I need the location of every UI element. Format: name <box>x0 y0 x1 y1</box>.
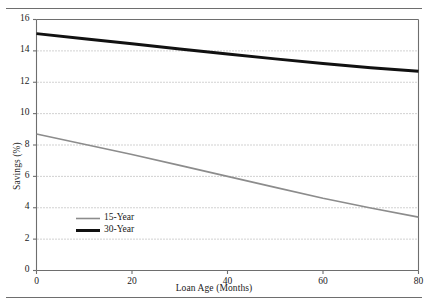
y-tick-label-4: 4 <box>4 201 30 211</box>
x-tick-label-40: 40 <box>208 276 248 286</box>
data-series-group <box>37 34 419 218</box>
y-tick-label-10: 10 <box>4 107 30 117</box>
series-line-30-year <box>37 34 419 72</box>
y-axis-label: Savings (%) <box>12 142 22 190</box>
series-line-15-year <box>37 134 419 217</box>
y-tick-label-12: 12 <box>4 76 30 86</box>
x-tick-label-0: 0 <box>17 276 57 286</box>
y-tick-label-8: 8 <box>4 139 30 149</box>
y-tick-label-0: 0 <box>4 264 30 274</box>
x-tick-label-60: 60 <box>303 276 343 286</box>
gridlines-group <box>38 51 418 239</box>
legend-label-15-year: 15-Year <box>104 212 134 222</box>
y-tick-label-2: 2 <box>4 233 30 243</box>
y-tick-label-6: 6 <box>4 170 30 180</box>
legend-swatches-group <box>76 219 100 231</box>
legend-label-30-year: 30-Year <box>104 224 134 234</box>
line-chart-plot <box>0 0 428 308</box>
x-tick-label-80: 80 <box>399 276 428 286</box>
y-tick-label-16: 16 <box>4 13 30 23</box>
y-tick-label-14: 14 <box>4 44 30 54</box>
chart-figure: Savings (%) Loan Age (Months) 0246810121… <box>0 0 428 308</box>
tick-marks-group <box>33 20 419 275</box>
x-tick-label-20: 20 <box>112 276 152 286</box>
